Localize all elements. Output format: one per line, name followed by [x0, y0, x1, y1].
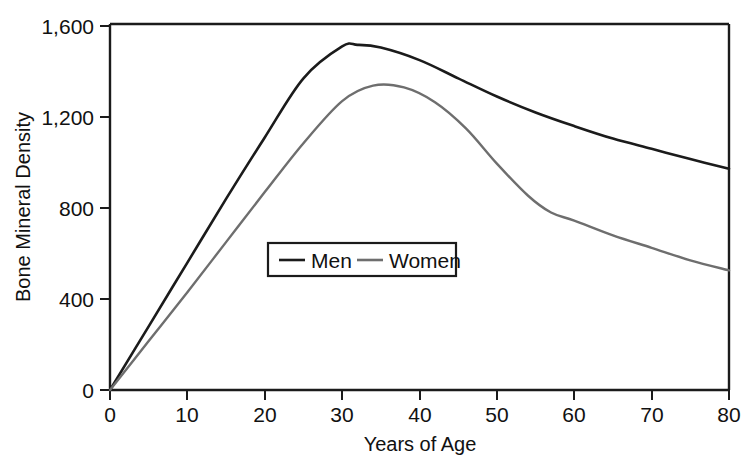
- y-tick-label-1600: 1,600: [41, 15, 94, 38]
- y-axis-title: Bone Mineral Density: [12, 112, 34, 302]
- legend-label-women: Women: [389, 249, 461, 272]
- x-tick-label-60: 60: [562, 403, 585, 426]
- x-tick-label-40: 40: [408, 403, 431, 426]
- x-tick-label-70: 70: [640, 403, 663, 426]
- y-tick-label-1200: 1,200: [41, 106, 94, 129]
- y-tick-label-0: 0: [82, 379, 94, 402]
- chart-legend[interactable]: Men Women: [268, 243, 461, 276]
- y-tick-label-400: 400: [59, 288, 94, 311]
- legend-label-men: Men: [311, 249, 352, 272]
- series-group: [110, 43, 729, 390]
- x-tick-label-50: 50: [485, 403, 508, 426]
- x-tick-label-80: 80: [717, 403, 740, 426]
- chart-figure: 1,600 1,200 800 400 0 0 10 20 30 40 50: [0, 0, 753, 458]
- x-tick-label-10: 10: [175, 403, 198, 426]
- y-axis-ticks: [100, 26, 110, 390]
- y-axis-tick-labels: 1,600 1,200 800 400 0: [41, 15, 94, 402]
- x-tick-label-0: 0: [104, 403, 116, 426]
- x-tick-label-30: 30: [330, 403, 353, 426]
- plot-frame: [110, 24, 729, 390]
- x-axis-tick-labels: 0 10 20 30 40 50 60 70 80: [104, 403, 741, 426]
- y-tick-label-800: 800: [59, 197, 94, 220]
- x-tick-label-20: 20: [253, 403, 276, 426]
- x-axis-ticks: [110, 390, 729, 400]
- chart-svg: 1,600 1,200 800 400 0 0 10 20 30 40 50: [0, 0, 753, 458]
- series-line-men: [110, 43, 729, 390]
- x-axis-title: Years of Age: [364, 433, 477, 455]
